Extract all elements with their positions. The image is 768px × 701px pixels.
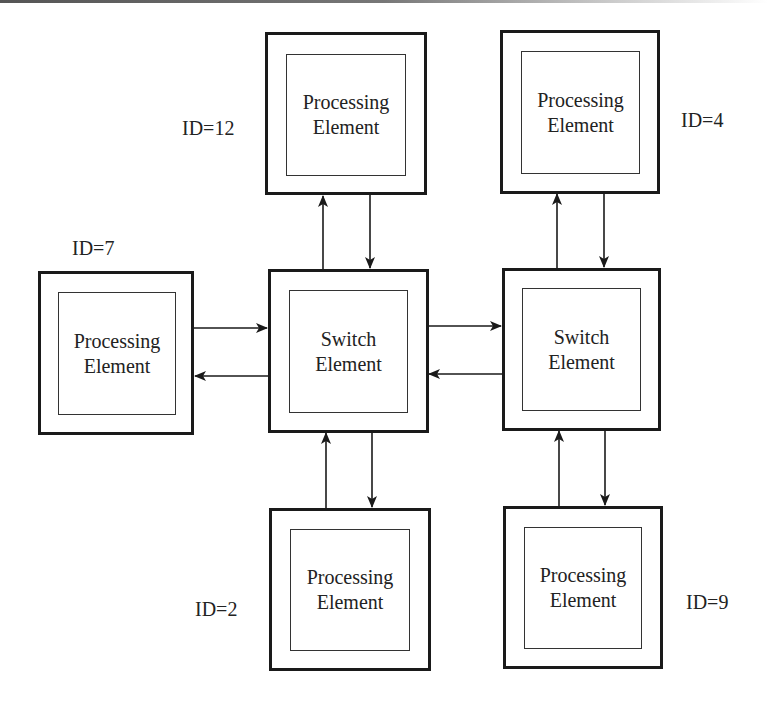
node-label-line2: Element [317, 590, 384, 615]
switch-element-1: Switch Element [268, 269, 429, 433]
node-label-line1: Processing [307, 565, 394, 590]
node-label-line1: Processing [537, 88, 624, 113]
node-label-line1: Processing [303, 90, 390, 115]
node-label-line2: Element [550, 588, 617, 613]
node-label-line1: Switch [554, 325, 610, 350]
id-label-12: ID=12 [182, 116, 234, 140]
node-label-line2: Element [84, 354, 151, 379]
processing-element-9-core: Processing Element [524, 527, 642, 649]
processing-element-12-core: Processing Element [286, 54, 406, 176]
processing-element-4: Processing Element [500, 30, 660, 194]
processing-element-12: Processing Element [265, 32, 427, 195]
processing-element-7-core: Processing Element [58, 292, 176, 415]
node-label-line2: Element [315, 352, 382, 377]
id-label-2: ID=2 [195, 597, 237, 621]
node-label-line1: Processing [540, 563, 627, 588]
processing-element-4-core: Processing Element [521, 51, 640, 174]
node-label-line2: Element [313, 115, 380, 140]
top-border-rule [0, 0, 768, 3]
id-label-9: ID=9 [686, 590, 728, 614]
processing-element-7: Processing Element [38, 271, 194, 435]
processing-element-2: Processing Element [269, 508, 431, 671]
switch-element-2: Switch Element [502, 268, 661, 431]
node-label-line1: Switch [321, 327, 377, 352]
node-label-line1: Processing [74, 329, 161, 354]
node-label-line2: Element [548, 350, 615, 375]
id-label-4: ID=4 [681, 108, 723, 132]
switch-element-1-core: Switch Element [289, 290, 408, 413]
processing-element-9: Processing Element [503, 506, 663, 669]
switch-element-2-core: Switch Element [522, 288, 641, 411]
node-label-line2: Element [547, 113, 614, 138]
processing-element-2-core: Processing Element [290, 529, 410, 651]
id-label-7: ID=7 [72, 236, 114, 260]
